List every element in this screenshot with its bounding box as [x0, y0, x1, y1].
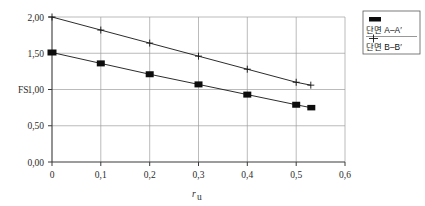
marker-a-0 [48, 50, 57, 56]
xtick-label-0-6: 0,6 [339, 170, 351, 180]
ytick-label-1-00: 1,00 [27, 85, 44, 95]
legend-label-b-bprime: 단면 B–B′ [366, 42, 402, 52]
chart-canvas: 2,00 1,50 1,00 0,50 0,00 0 0,1 0,2 0,3 0… [0, 0, 425, 206]
legend-marker-filled-square-icon [369, 17, 381, 22]
xtick-label-0-3: 0,3 [193, 170, 205, 180]
xtick-label-0: 0 [50, 170, 55, 180]
ytick-label-0-00: 0,00 [27, 158, 44, 168]
xtick-label-0-5: 0,5 [290, 170, 302, 180]
chart-figure: 2,00 1,50 1,00 0,50 0,00 0 0,1 0,2 0,3 0… [0, 0, 425, 206]
xtick-label-0-1: 0,1 [95, 170, 107, 180]
x-axis-title: r u [192, 189, 202, 202]
marker-a-4 [243, 92, 251, 98]
ytick-label-2-00: 2,00 [27, 13, 44, 23]
y-tick-marks [48, 17, 52, 162]
y-axis-title: FS [18, 85, 29, 95]
marker-a-1 [97, 60, 105, 66]
marker-a-3 [195, 81, 203, 87]
legend[interactable]: 단면 A–A′ 단면 B–B′ [363, 11, 420, 54]
x-tick-marks [52, 162, 345, 166]
ytick-label-1-50: 1,50 [27, 49, 44, 59]
ytick-label-0-50: 0,50 [27, 121, 44, 131]
legend-label-a-aprime: 단면 A–A′ [366, 25, 402, 35]
marker-a-5 [292, 102, 300, 108]
x-axis-title-base: r [192, 189, 196, 199]
marker-a-2 [146, 71, 154, 77]
xtick-label-0-2: 0,2 [144, 170, 156, 180]
y-tick-labels: 2,00 1,50 1,00 0,50 0,00 [27, 13, 44, 168]
marker-a-6 [307, 105, 315, 111]
x-tick-labels: 0 0,1 0,2 0,3 0,4 0,5 0,6 [50, 170, 352, 180]
xtick-label-0-4: 0,4 [241, 170, 253, 180]
x-axis-title-subscript: u [197, 192, 202, 202]
